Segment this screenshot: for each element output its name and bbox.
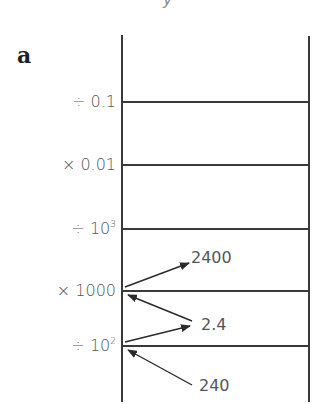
arrow-240-to-rung5 [128, 350, 192, 385]
arrows [0, 0, 329, 404]
arrow-2-4-to-rung4 [128, 295, 192, 321]
arrow-to-2400 [125, 263, 189, 287]
arrow-rung5-to-2-4 [125, 326, 190, 342]
